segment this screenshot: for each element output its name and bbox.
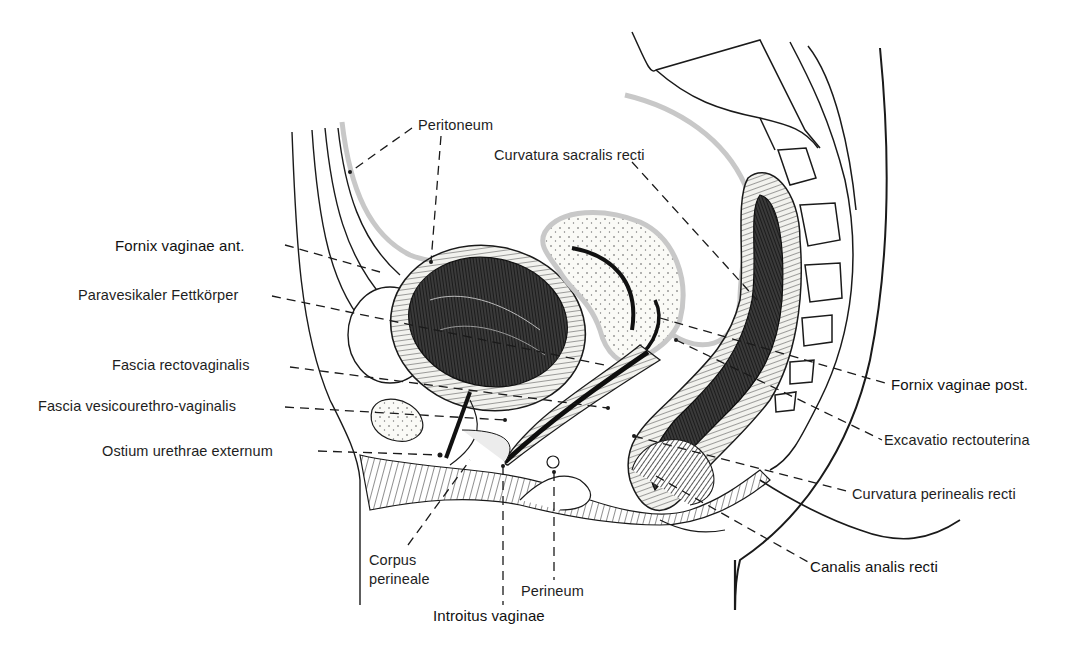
label-ostium-urethrae-externum: Ostium urethrae externum [102, 443, 273, 460]
label-perineum: Perineum [521, 583, 584, 600]
label-fascia-rectovaginalis: Fascia rectovaginalis [112, 357, 250, 374]
pelvis-section-illustration [0, 0, 1085, 648]
label-canalis-analis-recti: Canalis analis recti [810, 558, 938, 575]
label-fornix-vaginae-ant: Fornix vaginae ant. [115, 237, 244, 254]
label-corpus-perineale: Corpus perineale [369, 551, 430, 589]
label-excavatio-rectouterina: Excavatio rectouterina [884, 432, 1030, 449]
label-curvatura-sacralis-recti: Curvatura sacralis recti [494, 147, 645, 164]
label-fornix-vaginae-post: Fornix vaginae post. [891, 376, 1028, 393]
label-fascia-vesicourethro-vaginalis: Fascia vesicourethro-vaginalis [38, 398, 236, 415]
label-peritoneum: Peritoneum [418, 117, 493, 134]
anatomy-figure: Peritoneum Fornix vaginae ant. Paravesik… [0, 0, 1085, 648]
label-curvatura-perinealis-recti: Curvatura perinealis recti [852, 486, 1016, 503]
label-introitus-vaginae: Introitus vaginae [433, 607, 545, 624]
label-paravesikaler-fettkoerper: Paravesikaler Fettkörper [78, 287, 238, 304]
